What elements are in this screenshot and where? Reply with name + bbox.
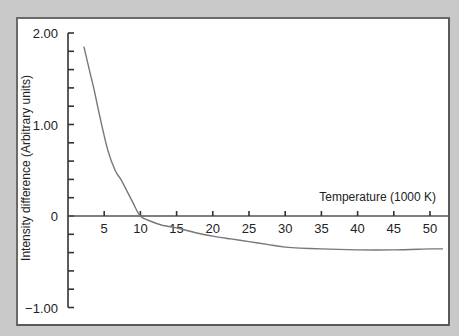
- x-axis-title: Temperature (1000 K): [319, 190, 436, 204]
- x-tick-label: 45: [387, 221, 401, 236]
- x-tick-label: 30: [278, 221, 292, 236]
- x-tick-label: 50: [423, 221, 437, 236]
- x-tick-label: 40: [350, 221, 364, 236]
- chart: 2.001.000−1.00 5101520253035404550 Tempe…: [0, 0, 459, 336]
- y-axis-title: Intensity difference (Arbitrary units): [19, 75, 33, 261]
- x-axis: 5101520253035404550: [68, 211, 448, 236]
- x-tick-label: 20: [206, 221, 220, 236]
- x-tick-label: 10: [133, 221, 147, 236]
- x-tick-label: 5: [101, 221, 108, 236]
- x-tick-label: 35: [314, 221, 328, 236]
- y-tick-label: 1.00: [33, 118, 58, 133]
- y-tick-label: 2.00: [33, 26, 58, 41]
- series-line: [84, 47, 443, 250]
- y-tick-label: 0: [51, 209, 58, 224]
- x-tick-label: 25: [242, 221, 256, 236]
- y-tick-label: −1.00: [25, 301, 58, 316]
- series: [84, 47, 443, 250]
